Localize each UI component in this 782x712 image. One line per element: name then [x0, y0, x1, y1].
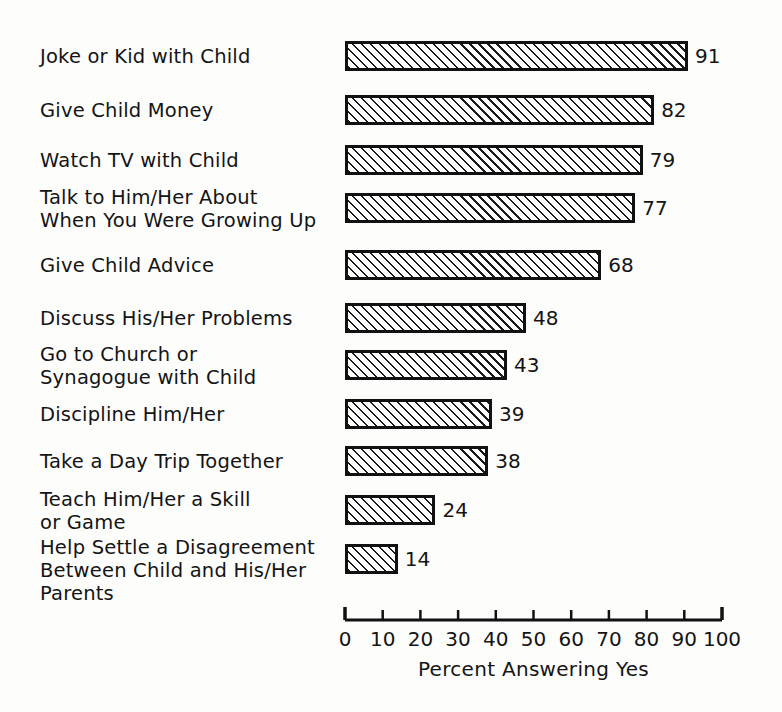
- bar-value-label: 48: [533, 308, 558, 328]
- bar: [345, 250, 601, 280]
- bar: [345, 544, 398, 574]
- x-tick-label: 100: [703, 629, 741, 649]
- category-label: Help Settle a Disagreement Between Child…: [40, 536, 340, 605]
- category-label: Watch TV with Child: [40, 149, 340, 172]
- bar-value-label: 68: [608, 255, 633, 275]
- bar-chart: Joke or Kid with Child Give Child Money …: [0, 0, 782, 712]
- bar: [345, 193, 635, 223]
- x-tick-label: 10: [370, 629, 395, 649]
- x-tick-label: 30: [445, 629, 470, 649]
- bar: [345, 303, 526, 333]
- bar: [345, 41, 688, 71]
- bar-value-label: 43: [514, 355, 539, 375]
- bar-value-label: 82: [661, 100, 686, 120]
- x-tick-label: 50: [521, 629, 546, 649]
- bar-value-label: 14: [405, 549, 430, 569]
- bar-value-label: 24: [442, 500, 467, 520]
- bar-value-label: 79: [650, 150, 675, 170]
- bar: [345, 399, 492, 429]
- bar-value-label: 39: [499, 404, 524, 424]
- bar-value-label: 91: [695, 46, 720, 66]
- bar: [345, 495, 435, 525]
- x-tick-label: 90: [672, 629, 697, 649]
- category-label: Joke or Kid with Child: [40, 45, 340, 68]
- x-tick-label: 20: [408, 629, 433, 649]
- bar: [345, 145, 643, 175]
- x-tick-label: 40: [483, 629, 508, 649]
- category-label: Discuss His/Her Problems: [40, 307, 340, 330]
- x-axis-title: Percent Answering Yes: [418, 658, 649, 680]
- x-tick-label: 70: [596, 629, 621, 649]
- x-tick-label: 60: [558, 629, 583, 649]
- category-label: Go to Church or Synagogue with Child: [40, 343, 340, 389]
- category-label: Teach Him/Her a Skill or Game: [40, 488, 340, 534]
- category-label: Take a Day Trip Together: [40, 450, 340, 473]
- bar-value-label: 77: [642, 198, 667, 218]
- category-label: Talk to Him/Her About When You Were Grow…: [40, 186, 340, 232]
- bar-value-label: 38: [495, 451, 520, 471]
- category-label: Discipline Him/Her: [40, 403, 340, 426]
- x-tick-label: 0: [339, 629, 352, 649]
- bar: [345, 446, 488, 476]
- category-label: Give Child Advice: [40, 254, 340, 277]
- x-tick-label: 80: [634, 629, 659, 649]
- bar: [345, 95, 654, 125]
- category-label: Give Child Money: [40, 99, 340, 122]
- bar: [345, 350, 507, 380]
